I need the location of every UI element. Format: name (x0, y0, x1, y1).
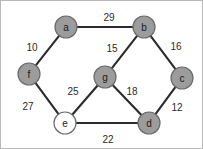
node-label-e: e (62, 118, 68, 129)
graph-node-g: g (94, 66, 116, 88)
edge-weight-c-d: 12 (171, 102, 183, 113)
node-label-a: a (63, 22, 69, 33)
graph-diagram-figure: abcdefg 291015161222182527 (0, 0, 203, 149)
node-label-g: g (102, 72, 108, 83)
node-label-f: f (28, 69, 31, 80)
graph-edge-a-f (35, 35, 60, 66)
edge-weight-d-g: 18 (126, 86, 138, 97)
graph-edge-e-f (35, 82, 59, 115)
graph-node-b: b (133, 16, 155, 38)
edge-weight-b-g: 15 (106, 43, 118, 54)
graph-node-e: e (54, 112, 76, 134)
edge-weight-a-b: 29 (103, 12, 115, 23)
graph-node-f: f (18, 63, 40, 85)
graph-node-d: d (138, 112, 160, 134)
graph-node-a: a (55, 16, 77, 38)
graph-canvas: abcdefg 291015161222182527 (1, 1, 203, 149)
edge-weight-e-f: 27 (22, 101, 34, 112)
edge-weight-a-f: 10 (26, 42, 38, 53)
node-label-d: d (146, 118, 152, 129)
node-label-b: b (141, 22, 147, 33)
edge-weight-b-c: 16 (170, 41, 182, 52)
graph-node-c: c (171, 67, 193, 89)
edge-weight-d-e: 22 (102, 134, 114, 145)
nodes-layer: abcdefg (18, 16, 193, 134)
edge-weight-e-g: 25 (67, 86, 79, 97)
node-label-c: c (180, 73, 185, 84)
